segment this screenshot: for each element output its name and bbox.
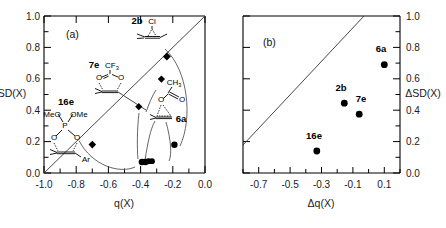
panel-b: 0.0 0.2 0.4 0.6 0.8 1.0 -0.7 bbox=[243, 11, 441, 210]
data-point-diamond-2 bbox=[158, 76, 165, 83]
structure-16e: MeO OMe P O O Ar bbox=[43, 110, 90, 164]
panel-b-data-points bbox=[313, 61, 387, 154]
data-point-cluster-4 bbox=[149, 158, 155, 164]
data-point-circle-right bbox=[171, 142, 177, 148]
structure-6a-o-left: O bbox=[158, 95, 164, 104]
panel-b-ytick-1: 0.2 bbox=[406, 136, 420, 147]
panel-b-xlabel: Δq(X) bbox=[308, 197, 335, 209]
panel-a-xtick-5: 0.0 bbox=[198, 179, 212, 190]
label-16e-b: 16e bbox=[306, 130, 322, 141]
panel-b-xtick-3: -0.1 bbox=[344, 179, 362, 190]
label-16e-a: 16e bbox=[58, 96, 74, 107]
panel-a-ytick-5: 1.0 bbox=[26, 11, 40, 22]
panel-a-xtick-2: -0.6 bbox=[100, 179, 118, 190]
panel-a-ytick-4: 0.8 bbox=[26, 42, 40, 53]
panel-a-circle-markers bbox=[139, 142, 178, 166]
panel-b-tag: (b) bbox=[263, 36, 276, 48]
panel-b-ylabel: ΔSD(X) bbox=[405, 87, 441, 99]
panel-b-ytick-3: 0.6 bbox=[406, 73, 420, 84]
structure-7e-cf3-atom: CF3 bbox=[105, 61, 119, 71]
panel-b-xtick-1: -0.5 bbox=[281, 179, 299, 190]
figure-container: 0.0 0.2 0.4 0.6 0.8 1.0 -1.0 bbox=[0, 0, 446, 228]
structure-6a-o-right: O bbox=[179, 95, 185, 104]
connector-7e-point bbox=[137, 113, 139, 159]
label-2b-b: 2b bbox=[335, 82, 346, 93]
panel-a-xlabel: q(X) bbox=[114, 197, 134, 209]
structure-2b-cl-atom: Cl bbox=[148, 17, 156, 26]
data-point-6a-b bbox=[381, 61, 388, 68]
panel-b-ytick-4: 0.8 bbox=[406, 42, 420, 53]
structure-16e-p-atom: P bbox=[62, 121, 67, 130]
panel-a-ytick-0: 0.0 bbox=[26, 168, 40, 179]
structure-7e-o-left: O bbox=[96, 73, 102, 82]
panel-a-xtick-4: -0.2 bbox=[164, 179, 182, 190]
panel-b-ytick-0: 0.0 bbox=[406, 168, 420, 179]
panel-b-xtick-0: -0.7 bbox=[250, 179, 268, 190]
panel-b-ytick-2: 0.4 bbox=[406, 105, 420, 116]
panel-b-trend-line bbox=[243, 16, 364, 145]
panel-a-ytick-1: 0.2 bbox=[26, 136, 40, 147]
structure-16e-o-left: O bbox=[51, 133, 57, 142]
data-point-7e-b bbox=[356, 111, 363, 118]
panel-b-x-ticks: -0.7 -0.5 -0.3 -0.1 0.1 bbox=[243, 167, 400, 190]
label-7e-a: 7e bbox=[89, 59, 100, 70]
panel-a-ytick-2: 0.4 bbox=[26, 105, 40, 116]
panel-b-ytick-5: 1.0 bbox=[406, 11, 420, 22]
label-2b-a: 2b bbox=[131, 15, 142, 26]
panel-a-y-ticks: 0.0 0.2 0.4 0.6 0.8 1.0 bbox=[26, 11, 51, 179]
structure-7e: CF3 O O bbox=[95, 61, 146, 110]
panel-a-xtick-0: -1.0 bbox=[35, 179, 53, 190]
panel-a-xtick-3: -0.4 bbox=[132, 179, 150, 190]
panel-a-xtick-1: -0.8 bbox=[68, 179, 86, 190]
connector-mid-up bbox=[146, 90, 156, 112]
data-point-16e-b bbox=[313, 148, 320, 155]
structure-7e-o-right: O bbox=[118, 73, 124, 82]
label-7e-b: 7e bbox=[356, 93, 367, 104]
structure-6a-ch3-atom: CH3 bbox=[167, 78, 182, 88]
label-6a-a: 6a bbox=[176, 113, 187, 124]
panel-a-ytick-3: 0.6 bbox=[26, 73, 40, 84]
label-6a-b: 6a bbox=[376, 43, 387, 54]
structure-16e-ar-atom: Ar bbox=[82, 155, 90, 164]
panel-a-ylabel: SD(X) bbox=[0, 87, 26, 99]
panel-a: 0.0 0.2 0.4 0.6 0.8 1.0 -1.0 bbox=[0, 0, 446, 228]
panel-b-xtick-4: 0.1 bbox=[377, 179, 391, 190]
connector-6a-right bbox=[166, 122, 171, 161]
connector-6a-left bbox=[145, 121, 155, 160]
panel-b-compound-labels: 6a 2b 7e 16e bbox=[306, 43, 387, 141]
data-point-2b-b bbox=[341, 100, 348, 107]
panel-a-tag: (a) bbox=[66, 28, 79, 40]
panel-b-xtick-2: -0.3 bbox=[313, 179, 331, 190]
data-point-16e-a bbox=[89, 141, 97, 149]
